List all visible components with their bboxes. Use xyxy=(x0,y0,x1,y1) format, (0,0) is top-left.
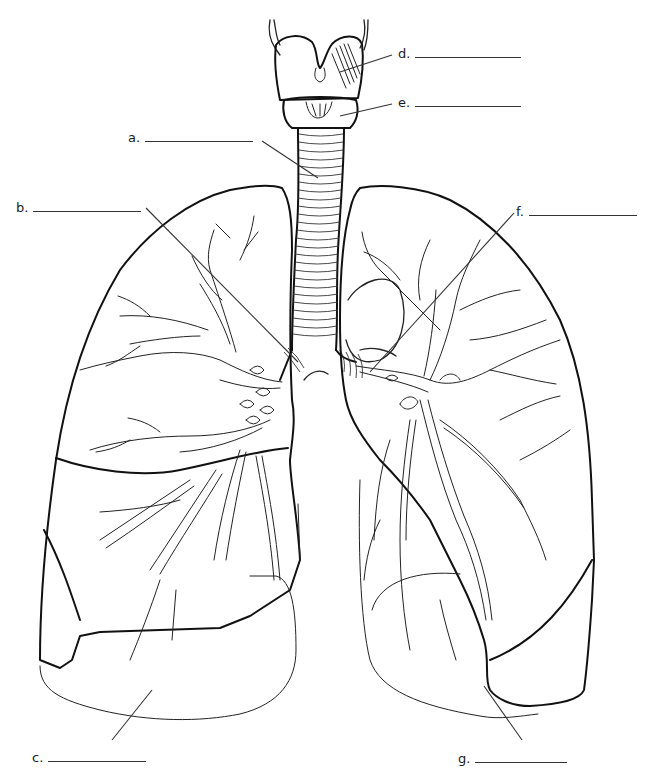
answer-blank-a[interactable] xyxy=(145,141,253,142)
leader-f xyxy=(370,213,514,372)
label-c-letter: c. xyxy=(32,751,43,765)
label-g: g. xyxy=(458,752,567,766)
label-a-letter: a. xyxy=(128,131,140,145)
label-e-letter: e. xyxy=(398,96,410,110)
leader-e xyxy=(340,104,392,116)
answer-blank-f[interactable] xyxy=(529,215,637,216)
lung-diagram xyxy=(0,0,651,771)
answer-blank-b[interactable] xyxy=(33,211,141,212)
bronchial-tree-left xyxy=(356,232,570,660)
answer-blank-d[interactable] xyxy=(415,57,521,58)
label-d: d. xyxy=(398,47,521,61)
label-e: e. xyxy=(398,96,521,110)
answer-blank-g[interactable] xyxy=(475,762,567,763)
label-d-letter: d. xyxy=(398,47,410,61)
leader-d xyxy=(340,55,392,72)
leader-b xyxy=(146,208,298,362)
right-lung xyxy=(40,186,300,720)
leader-lines xyxy=(112,55,522,740)
answer-blank-e[interactable] xyxy=(415,106,521,107)
bronchial-tree-right xyxy=(80,216,282,660)
label-f: f. xyxy=(516,205,637,219)
leader-g xyxy=(484,686,522,740)
answer-blank-c[interactable] xyxy=(48,761,146,762)
label-f-letter: f. xyxy=(516,205,524,219)
larynx xyxy=(269,20,368,128)
label-a: a. xyxy=(128,131,253,145)
label-b-letter: b. xyxy=(16,201,28,215)
leader-c xyxy=(112,690,152,740)
label-g-letter: g. xyxy=(458,752,470,766)
label-c: c. xyxy=(32,751,146,765)
label-b: b. xyxy=(16,201,141,215)
